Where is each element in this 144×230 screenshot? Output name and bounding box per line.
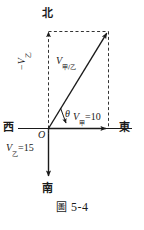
minus-vb-symbol: V — [16, 58, 27, 64]
figure-caption: 圖 5-4 — [0, 198, 144, 215]
va-subscript: 甲 — [79, 119, 85, 126]
label-vb-vector: V乙=15 — [6, 143, 34, 155]
caption-number: 5-4 — [71, 200, 89, 214]
vb-value: =15 — [18, 142, 34, 153]
va-value: =10 — [85, 111, 101, 122]
compass-label-west: 西 — [3, 122, 14, 133]
minus-sign: − — [16, 64, 27, 70]
label-resultant-vector: V甲/乙 — [56, 56, 76, 68]
caption-icon: 圖 — [56, 201, 68, 214]
resultant-subscript: 甲/乙 — [62, 63, 76, 70]
label-minus-vb-vector: −V乙 — [17, 52, 29, 70]
compass-label-south: 南 — [42, 183, 53, 194]
origin-label: O — [38, 130, 45, 140]
compass-label-north: 北 — [42, 8, 53, 19]
vector-diagram — [0, 0, 144, 230]
compass-label-east: 東 — [119, 122, 130, 133]
label-va-vector: V甲=10 — [73, 112, 101, 124]
angle-theta-label: θ — [65, 109, 70, 119]
vb-subscript: 乙 — [12, 150, 18, 157]
figure-container: 北 南 西 東 O V甲/乙 −V乙 V甲=10 V乙=15 θ 圖 5-4 — [0, 0, 144, 230]
minus-vb-subscript: 乙 — [24, 52, 31, 58]
